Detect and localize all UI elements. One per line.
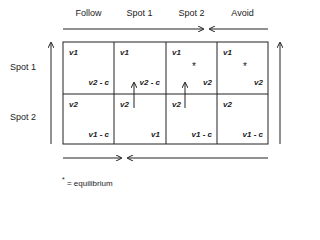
cell-value: v1 (223, 48, 232, 57)
cell-spot2-spot1: v2 v1 (114, 94, 165, 144)
cell-value: v2 - c (89, 78, 109, 87)
legend: * = equilibrium (62, 176, 113, 188)
cell-spot1-spot1: v1 v2 - c (114, 42, 165, 92)
cell-value: v2 - c (140, 78, 160, 87)
cell-value: v2 (254, 78, 263, 87)
cell-value: v1 (151, 130, 160, 139)
cell-value: v2 (172, 100, 181, 109)
cell-value: v1 (120, 48, 129, 57)
cell-value: v1 (172, 48, 181, 57)
cell-value: v2 (69, 100, 78, 109)
cell-value: v2 (203, 78, 212, 87)
cell-value: v1 - c (192, 130, 212, 139)
equilibrium-star-icon: * (192, 61, 196, 72)
cell-value: v1 (69, 48, 78, 57)
legend-star-icon: * (62, 176, 65, 183)
cell-value: v1 - c (243, 130, 263, 139)
legend-text: = equilibrium (67, 179, 113, 188)
cell-spot2-follow: v2 v1 - c (63, 94, 114, 144)
cell-value: v2 (223, 100, 232, 109)
cell-spot1-follow: v1 v2 - c (63, 42, 114, 92)
cell-value: v2 (120, 100, 129, 109)
equilibrium-star-icon: * (243, 61, 247, 72)
cell-value: v1 - c (89, 130, 109, 139)
cell-spot1-avoid: v1 * v2 (217, 42, 268, 92)
cell-spot2-spot2: v2 v1 - c (166, 94, 217, 144)
cell-spot2-avoid: v2 v1 - c (217, 94, 268, 144)
cell-spot1-spot2: v1 * v2 (166, 42, 217, 92)
